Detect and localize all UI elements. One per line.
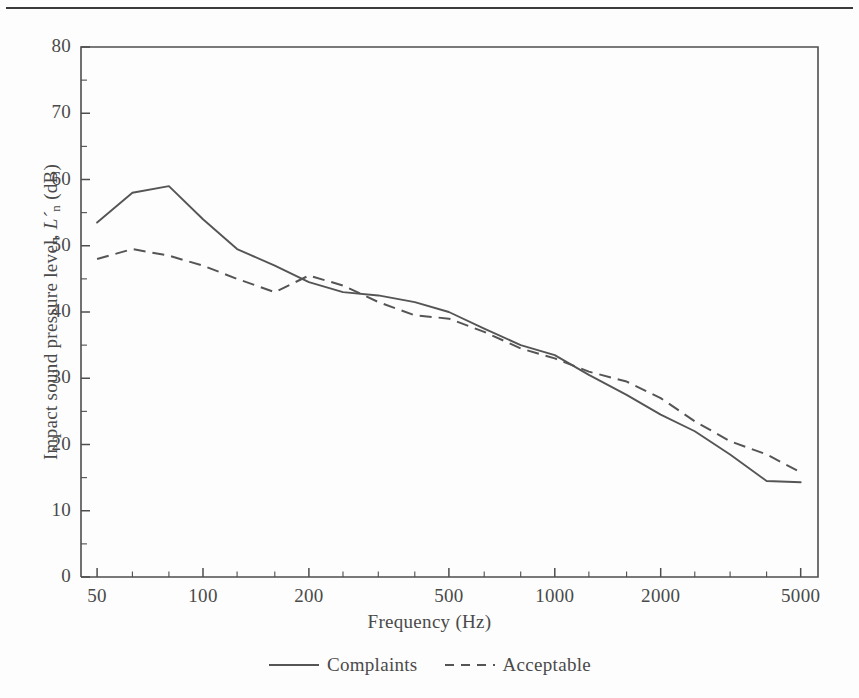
figure-page: 01020304050607080 5010020050010002000500… (0, 0, 859, 698)
y-axis-title-suffix: (dB) (40, 164, 61, 205)
x-tick-label: 200 (269, 585, 349, 607)
x-tick-label: 50 (57, 585, 137, 607)
y-axis-title-symbol: L´ (40, 212, 61, 230)
chart-legend: ComplaintsAcceptable (0, 655, 859, 674)
x-tick-label: 100 (163, 585, 243, 607)
chart-figure: 01020304050607080 5010020050010002000500… (0, 0, 859, 698)
legend-label: Complaints (327, 655, 418, 674)
x-tick-label: 5000 (761, 585, 841, 607)
y-axis-title-subscript: n (48, 205, 63, 212)
legend-entry-acceptable: Acceptable (444, 655, 591, 674)
x-tick-label: 500 (409, 585, 489, 607)
y-axis-title: Impact sound pressure level, L´n (dB) (40, 52, 64, 572)
series-line-complaints (97, 186, 801, 482)
x-axis-title: Frequency (Hz) (0, 611, 859, 633)
x-tick-label: 2000 (621, 585, 701, 607)
legend-label: Acceptable (503, 655, 591, 674)
y-axis-title-prefix: Impact sound pressure level, (40, 229, 61, 460)
legend-entry-complaints: Complaints (268, 655, 418, 674)
ticks-group (81, 47, 801, 577)
x-tick-label: 1000 (515, 585, 595, 607)
series-group (97, 186, 801, 482)
dashed-line-icon (444, 659, 496, 671)
series-line-acceptable (97, 249, 801, 472)
solid-line-icon (268, 659, 320, 671)
